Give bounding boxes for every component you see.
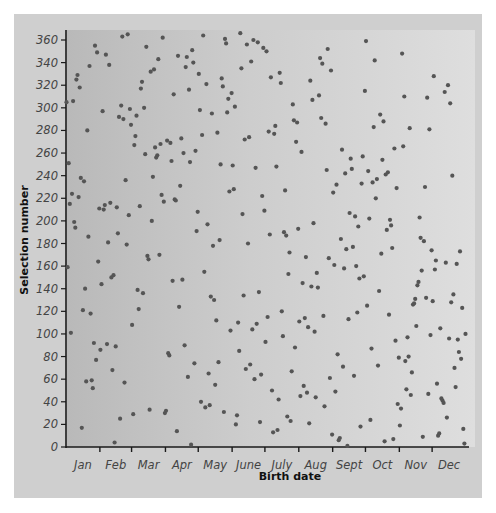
data-point: [348, 211, 352, 215]
data-point: [395, 186, 399, 190]
data-point: [398, 423, 402, 427]
data-point: [124, 178, 128, 182]
data-point: [256, 40, 260, 44]
data-point: [98, 348, 102, 352]
data-point: [80, 426, 84, 430]
data-point: [64, 100, 68, 104]
data-point: [428, 333, 432, 337]
data-point: [105, 342, 109, 346]
data-point: [213, 383, 217, 387]
data-point: [303, 316, 307, 320]
data-point: [298, 394, 302, 398]
data-point: [451, 292, 455, 296]
data-point: [90, 378, 94, 382]
data-point: [111, 273, 115, 277]
data-point: [180, 278, 184, 282]
data-point: [396, 402, 400, 406]
data-point: [454, 385, 458, 389]
data-point: [365, 304, 369, 308]
data-point: [445, 416, 449, 420]
data-point: [91, 386, 95, 390]
data-point: [77, 195, 81, 199]
data-point: [225, 110, 229, 114]
data-point: [162, 200, 166, 204]
data-point: [327, 256, 331, 260]
data-point: [136, 288, 140, 292]
y-tick-label: 180: [36, 237, 58, 251]
y-tick-label: 60: [43, 372, 58, 386]
data-point: [202, 270, 206, 274]
data-point: [457, 350, 461, 354]
data-point: [356, 224, 360, 228]
data-point: [69, 331, 73, 335]
data-point: [171, 279, 175, 283]
data-point: [139, 87, 143, 91]
data-point: [143, 152, 147, 156]
data-point: [427, 127, 431, 131]
data-point: [103, 203, 107, 207]
data-point: [231, 163, 235, 167]
data-point: [254, 166, 258, 170]
data-point: [414, 324, 418, 328]
data-point: [421, 435, 425, 439]
data-point: [351, 245, 355, 249]
data-point: [314, 395, 318, 399]
data-point: [106, 240, 110, 244]
data-point: [129, 123, 133, 127]
data-point: [449, 300, 453, 304]
data-point: [407, 355, 411, 359]
data-point: [461, 427, 465, 431]
data-point: [212, 298, 216, 302]
data-point: [230, 91, 234, 95]
data-point: [378, 113, 382, 117]
data-point: [99, 282, 103, 286]
data-point: [175, 429, 179, 433]
data-point: [204, 82, 208, 86]
data-point: [369, 347, 373, 351]
x-tick-label: Feb: [105, 458, 126, 472]
data-point: [101, 109, 105, 113]
data-point: [402, 94, 406, 98]
data-point: [144, 45, 148, 49]
data-point: [195, 229, 199, 233]
data-point: [244, 367, 248, 371]
data-point: [420, 269, 424, 273]
data-point: [302, 384, 306, 388]
data-point: [198, 108, 202, 112]
data-point: [177, 305, 181, 309]
data-point: [258, 420, 262, 424]
data-point: [185, 55, 189, 59]
data-point: [392, 146, 396, 150]
data-point: [187, 88, 191, 92]
data-point: [283, 188, 287, 192]
data-point: [94, 358, 98, 362]
y-tick-label: 240: [36, 169, 58, 183]
data-point: [310, 98, 314, 102]
data-point: [408, 126, 412, 130]
data-point: [222, 410, 226, 414]
data-point: [311, 221, 315, 225]
data-point: [114, 344, 118, 348]
data-point: [400, 52, 404, 56]
data-point: [317, 93, 321, 97]
data-point: [430, 248, 434, 252]
data-point: [386, 170, 390, 174]
data-point: [264, 49, 268, 53]
data-point: [397, 356, 401, 360]
data-point: [354, 264, 358, 268]
data-point: [285, 414, 289, 418]
data-point: [250, 327, 254, 331]
data-point: [413, 297, 417, 301]
data-point: [150, 219, 154, 223]
data-point: [271, 430, 275, 434]
data-point: [122, 381, 126, 385]
y-tick-label: 140: [36, 282, 58, 296]
data-point: [104, 53, 108, 57]
data-point: [127, 213, 131, 217]
data-point: [387, 313, 391, 317]
data-point: [89, 312, 93, 316]
data-point: [183, 343, 187, 347]
data-point: [423, 185, 427, 189]
data-point: [83, 287, 87, 291]
data-point: [108, 201, 112, 205]
